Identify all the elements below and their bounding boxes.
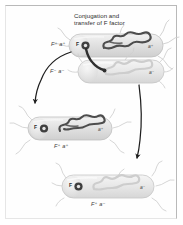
genotype-label-product-recipient-cell: F⁺ a⁻ [91, 201, 106, 207]
figure-title: Conjugation and transfer of F factor [74, 13, 125, 27]
gene-label-donor-chromosome: a⁺ [148, 44, 153, 49]
arrow-right-path [137, 85, 141, 158]
arrow-left-path [35, 52, 71, 103]
gene-label-product-recipient-chromosome: a⁻ [140, 185, 145, 190]
genotype-label-product-donor-cell: F⁺ a⁺ [54, 143, 69, 149]
diagram-canvas [0, 0, 183, 225]
f-plasmid-label-donor: F [76, 42, 79, 48]
genotype-label-recipient-cell: F⁻ a⁻ [50, 68, 65, 74]
genotype-label-donor-cell: F⁺ a⁺ [51, 41, 66, 47]
figure-title-line2: transfer of F factor [74, 20, 125, 27]
conjugation-figure: Conjugation and transfer of F factor F⁺ … [0, 0, 183, 225]
f-plasmid-product-donor [40, 124, 48, 132]
gene-label-recipient-chromosome: a⁻ [149, 70, 154, 75]
f-plasmid-label-product-donor: F [34, 125, 37, 131]
f-plasmid-label-product-recipient: F [69, 183, 72, 189]
f-plasmid-product-recipient [74, 182, 82, 190]
gene-label-product-donor-chromosome: a⁺ [98, 127, 103, 132]
